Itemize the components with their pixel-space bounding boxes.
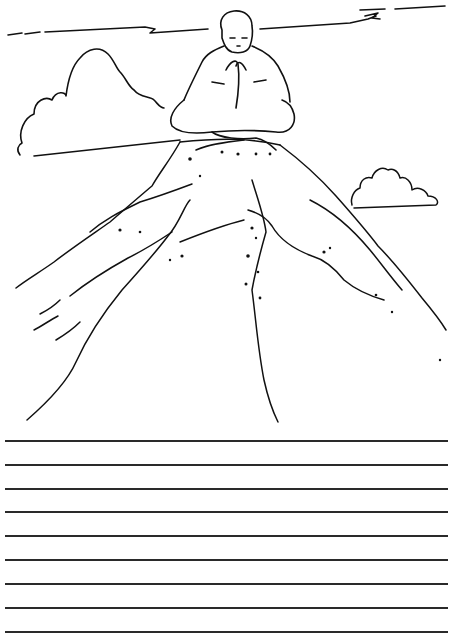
writing-line-4[interactable] (5, 511, 448, 513)
left-cloud (18, 49, 164, 155)
writing-line-5[interactable] (5, 535, 448, 537)
writing-line-9[interactable] (5, 631, 448, 633)
right-cloud (351, 168, 437, 208)
writing-line-1[interactable] (5, 440, 448, 442)
rock-dots (118, 151, 441, 362)
writing-line-6[interactable] (5, 559, 448, 561)
mountain-meditation-illustration (0, 0, 456, 425)
writing-line-7[interactable] (5, 583, 448, 585)
writing-line-8[interactable] (5, 607, 448, 609)
sky-streaks (8, 6, 445, 35)
writing-line-3[interactable] (5, 488, 448, 490)
meditating-person (171, 11, 295, 150)
writing-line-2[interactable] (5, 464, 448, 466)
mountain (16, 139, 446, 422)
